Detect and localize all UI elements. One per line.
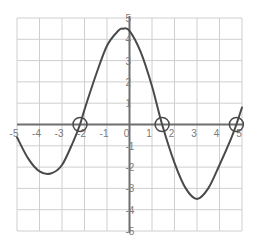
y-tick-label: -4 xyxy=(126,205,135,216)
x-tick-label: 4 xyxy=(214,128,220,139)
y-tick-label: -5 xyxy=(126,226,135,237)
y-tick-label: 2 xyxy=(126,77,132,88)
y-tick-label: 3 xyxy=(126,56,132,67)
x-tick-label: 1 xyxy=(146,128,152,139)
x-tick-label: -4 xyxy=(32,128,41,139)
x-tick-label: -3 xyxy=(55,128,64,139)
function-graph: -5-4-3-2-1012345 -5-4-3-2-112345 xyxy=(0,0,254,243)
y-tick-label: -2 xyxy=(126,162,135,173)
y-tick-label: 4 xyxy=(126,34,132,45)
y-tick-label: -3 xyxy=(126,183,135,194)
x-tick-label: -1 xyxy=(100,128,109,139)
axes xyxy=(17,16,244,233)
x-tick-label: 2 xyxy=(169,128,175,139)
y-tick-label: 5 xyxy=(126,13,132,24)
x-tick-label: 3 xyxy=(191,128,197,139)
x-tick-label: 0 xyxy=(124,128,130,139)
y-tick-label: 1 xyxy=(126,98,132,109)
graph-container: -5-4-3-2-1012345 -5-4-3-2-112345 xyxy=(0,0,254,243)
y-tick-label: -1 xyxy=(126,141,135,152)
x-tick-labels: -5-4-3-2-1012345 xyxy=(10,128,243,139)
